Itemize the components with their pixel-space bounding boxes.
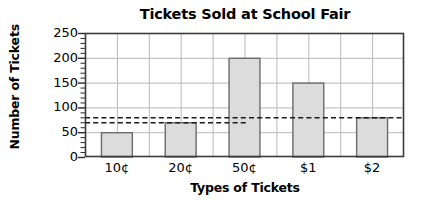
x-tick-label: 20¢ — [149, 160, 213, 175]
bar — [165, 123, 196, 157]
bar — [229, 58, 260, 157]
bar-chart: Tickets Sold at School Fair Number of Ti… — [0, 0, 428, 204]
x-axis-tick-labels: 10¢20¢50¢$1$2 — [85, 160, 405, 180]
x-tick-label: 50¢ — [213, 160, 277, 175]
bar — [101, 133, 132, 157]
x-axis-label: Types of Tickets — [85, 180, 405, 195]
x-tick-label: $2 — [340, 160, 404, 175]
bar — [293, 83, 324, 157]
y-axis-minor-ticks — [78, 34, 85, 158]
x-tick-label: 10¢ — [85, 160, 149, 175]
x-tick-label: $1 — [276, 160, 340, 175]
bar — [357, 118, 388, 157]
